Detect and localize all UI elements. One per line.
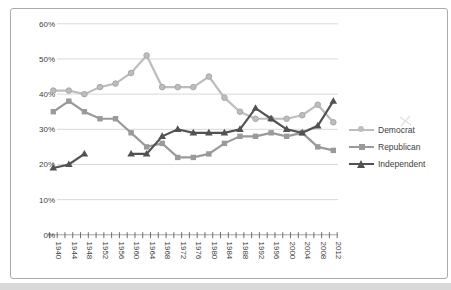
x-axis-label: 1948	[85, 242, 94, 260]
republican-point	[159, 141, 164, 146]
republican-point	[113, 116, 118, 121]
independent-marker-icon	[349, 159, 374, 168]
x-axis-label: 1996	[272, 242, 281, 260]
democrat-point	[284, 116, 290, 122]
democrat-point	[222, 95, 228, 101]
gridlines	[57, 24, 338, 200]
x-axis-label: 2000	[288, 242, 297, 260]
x-axis-label: 1964	[148, 242, 157, 260]
x-axis-label: 1968	[163, 242, 172, 260]
x-axis-labels: 1940194419481952195619601964196819721976…	[54, 242, 343, 260]
democrat-point	[237, 109, 243, 115]
x-axis-label: 1960	[132, 242, 141, 260]
x-axis-label: 2008	[319, 242, 328, 260]
democrat-point	[51, 88, 57, 94]
republican-point	[284, 134, 289, 139]
independent-point	[330, 97, 338, 104]
republican-point	[97, 116, 102, 121]
republican-point	[144, 144, 149, 149]
democrat-point	[175, 84, 181, 90]
x-axis-label: 1956	[117, 242, 126, 260]
democrat-point	[82, 91, 88, 97]
democrat-point	[331, 119, 337, 125]
republican-point	[206, 151, 211, 156]
independent-point	[252, 104, 260, 111]
republican-point	[175, 155, 180, 160]
democrat-point	[159, 84, 165, 90]
democrat-point	[128, 70, 134, 76]
republican-point	[268, 130, 273, 135]
smudge-x-mark	[398, 114, 414, 128]
x-axis-label: 1984	[225, 242, 234, 260]
republican-point	[253, 134, 258, 139]
democrat-point	[315, 102, 321, 108]
x-axis-label: 1992	[257, 242, 266, 260]
republican-point	[315, 144, 320, 149]
democrat-point	[97, 84, 103, 90]
y-axis-labels: 0%10%20%30%40%50%60%	[39, 20, 55, 240]
y-axis-label: 30%	[39, 125, 55, 134]
x-axis-label: 1940	[54, 242, 63, 260]
democrat-point	[144, 53, 150, 59]
x-axis-label: 1952	[101, 242, 110, 260]
y-axis-label: 10%	[39, 196, 55, 205]
republican-marker-icon	[349, 142, 374, 151]
republican-point	[222, 141, 227, 146]
x-axis-label: 1988	[241, 242, 250, 260]
democrat-point	[113, 81, 119, 87]
republican-point	[66, 98, 71, 103]
y-axis-label: 0%	[43, 231, 55, 240]
democrat-marker-icon	[349, 125, 374, 134]
republican-point	[51, 109, 56, 114]
democrat-point	[191, 84, 197, 90]
legend-item-republican: Republican	[349, 138, 449, 155]
democrat-point	[299, 112, 305, 118]
y-axis-label: 50%	[39, 55, 55, 64]
independent-point	[81, 150, 89, 157]
democrat-point	[253, 116, 259, 122]
x-axis-label: 2004	[303, 242, 312, 260]
democrat-series	[51, 53, 337, 125]
x-axis	[48, 232, 338, 238]
x-axis-label: 1976	[194, 242, 203, 260]
independent-point	[174, 125, 182, 132]
x-axis-label: 2012	[334, 242, 343, 260]
democrat-point	[206, 74, 212, 80]
republican-point	[237, 134, 242, 139]
x-axis-label: 1980	[210, 242, 219, 260]
republican-point	[191, 155, 196, 160]
y-axis-label: 60%	[39, 20, 55, 29]
republican-point	[128, 130, 133, 135]
x-axis-label: 1944	[70, 242, 79, 260]
legend-label-republican: Republican	[374, 142, 421, 152]
legend-label-independent: Independent	[374, 159, 425, 169]
republican-point	[82, 109, 87, 114]
republican-point	[331, 148, 336, 153]
x-axis-label: 1972	[179, 242, 188, 260]
window-bottom-strip	[0, 283, 451, 290]
democrat-point	[66, 88, 72, 94]
chart-legend: Democrat Republican Independent	[349, 121, 449, 172]
legend-item-independent: Independent	[349, 155, 449, 172]
